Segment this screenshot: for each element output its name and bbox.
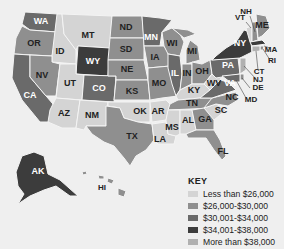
state-label-il: IL bbox=[171, 68, 180, 78]
state-label-ms: MS bbox=[165, 122, 179, 132]
state-label-ok: OK bbox=[133, 106, 147, 116]
legend-item: More than $38,000 bbox=[188, 236, 284, 248]
state-label-de: DE bbox=[252, 83, 264, 92]
state-label-mt: MT bbox=[82, 30, 95, 40]
state-hi-3[interactable] bbox=[107, 178, 114, 184]
state-label-ma: MA bbox=[265, 45, 278, 54]
state-label-co: CO bbox=[92, 83, 106, 93]
legend-item: Less than $26,000 bbox=[188, 188, 284, 200]
state-label-me: ME bbox=[255, 20, 269, 30]
state-label-sc: SC bbox=[215, 105, 228, 115]
state-label-tx: TX bbox=[126, 131, 138, 141]
state-label-nv: NV bbox=[36, 70, 49, 80]
state-label-ut: UT bbox=[64, 78, 76, 88]
state-label-nh: NH bbox=[240, 7, 252, 16]
state-label-wi: WI bbox=[167, 38, 178, 48]
state-label-wy: WY bbox=[86, 56, 101, 66]
state-label-or: OR bbox=[27, 38, 41, 48]
state-label-in: IN bbox=[183, 68, 192, 78]
legend-swatch bbox=[188, 191, 198, 197]
state-label-hi: HI bbox=[98, 183, 106, 192]
state-label-ca: CA bbox=[24, 90, 37, 100]
state-label-ia: IA bbox=[151, 52, 161, 62]
state-label-az: AZ bbox=[58, 108, 70, 118]
state-label-sd: SD bbox=[120, 44, 133, 54]
state-label-wa: WA bbox=[34, 16, 49, 26]
legend-item: $34,001-$38,000 bbox=[188, 224, 284, 236]
state-label-la: LA bbox=[154, 134, 166, 144]
state-label-ak: AK bbox=[32, 166, 45, 176]
legend-swatch bbox=[188, 239, 198, 245]
legend-label: Less than $26,000 bbox=[203, 189, 274, 199]
state-label-nd: ND bbox=[120, 22, 133, 32]
legend-swatch bbox=[188, 215, 198, 221]
state-ak[interactable] bbox=[16, 152, 78, 204]
state-label-ne: NE bbox=[121, 64, 134, 74]
state-label-ga: GA bbox=[198, 114, 212, 124]
state-label-ar: AR bbox=[152, 106, 165, 116]
state-label-mi: MI bbox=[187, 46, 197, 56]
state-label-nc: NC bbox=[226, 92, 239, 102]
legend-label: More than $38,000 bbox=[203, 237, 275, 247]
legend-label: $30,001-$34,000 bbox=[203, 213, 268, 223]
state-label-id: ID bbox=[56, 46, 66, 56]
state-label-oh: OH bbox=[195, 66, 209, 76]
legend-label: $34,001-$38,000 bbox=[203, 225, 268, 235]
state-label-pa: PA bbox=[222, 60, 234, 70]
state-label-wv: WV bbox=[207, 78, 222, 88]
legend-title: KEY bbox=[188, 176, 284, 186]
state-label-nm: NM bbox=[85, 110, 99, 120]
state-label-ny: NY bbox=[234, 38, 247, 48]
state-de[interactable] bbox=[240, 74, 244, 80]
state-label-mo: MO bbox=[152, 78, 167, 88]
state-hi-1[interactable] bbox=[82, 171, 87, 175]
legend-item: $26,000-$30,000 bbox=[188, 200, 284, 212]
state-label-al: AL bbox=[182, 115, 194, 125]
state-label-md: MD bbox=[245, 95, 258, 104]
us-income-map: WAORCAIDNVMTWYUTCOAZNMNDSDNEKSOKTXMNIAMO… bbox=[0, 0, 284, 249]
state-nj[interactable] bbox=[240, 58, 246, 74]
state-label-ri: RI bbox=[268, 56, 276, 65]
legend-item: $30,001-$34,000 bbox=[188, 212, 284, 224]
state-hi-2[interactable] bbox=[98, 175, 104, 179]
state-label-ks: KS bbox=[126, 86, 139, 96]
legend-swatch bbox=[188, 203, 198, 209]
state-label-mn: MN bbox=[144, 32, 158, 42]
state-label-fl: FL bbox=[218, 146, 229, 156]
legend: KEY Less than $26,000 $26,000-$30,000 $3… bbox=[188, 176, 284, 248]
state-hi-4[interactable] bbox=[118, 188, 126, 197]
legend-swatch bbox=[188, 227, 198, 233]
legend-label: $26,000-$30,000 bbox=[203, 201, 268, 211]
state-label-va: VA bbox=[224, 78, 236, 88]
state-label-tn: TN bbox=[186, 98, 198, 108]
state-label-ky: KY bbox=[188, 85, 201, 95]
